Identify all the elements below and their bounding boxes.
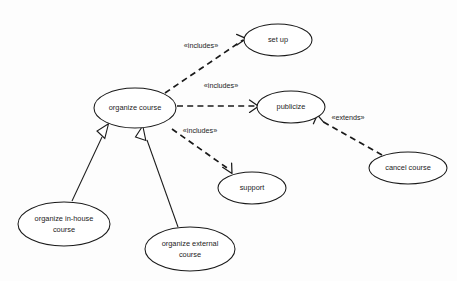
stereotype-label-includes-support: «includes» bbox=[183, 126, 217, 135]
use-case-support-label: support bbox=[240, 183, 265, 192]
relationship-includes-support[interactable] bbox=[172, 129, 232, 173]
use-case-organize-external-course[interactable]: organize external course bbox=[145, 227, 235, 271]
use-case-organize-in-house-course-label-line1: organize in-house bbox=[35, 214, 94, 223]
use-case-organize-in-house-course[interactable]: organize in-house course bbox=[18, 202, 110, 246]
generalization-in-house-line bbox=[72, 137, 102, 201]
use-case-cancel-course-label: cancel course bbox=[385, 163, 431, 172]
generalization-in-house-arrowhead bbox=[97, 124, 109, 139]
use-case-diagram-canvas: set up --> publicize --> support --> pub… bbox=[0, 0, 457, 281]
stereotype-label-includes-set-up: «includes» bbox=[184, 41, 218, 50]
use-case-layer: organize course set up publicize support… bbox=[18, 24, 447, 271]
use-case-organize-course[interactable]: organize course bbox=[94, 88, 176, 128]
use-case-organize-external-course-label-line1: organize external bbox=[162, 239, 219, 248]
use-case-cancel-course[interactable]: cancel course bbox=[369, 152, 447, 184]
use-case-publicize[interactable]: publicize bbox=[257, 91, 325, 123]
use-case-set-up[interactable]: set up bbox=[244, 24, 312, 56]
use-case-set-up-label: set up bbox=[268, 35, 288, 44]
use-case-publicize-label: publicize bbox=[277, 102, 306, 111]
stereotype-label-extends-publicize: «extends» bbox=[331, 113, 364, 122]
relationship-generalization-in-house[interactable] bbox=[72, 124, 109, 201]
stereotype-label-includes-publicize: «includes» bbox=[204, 81, 238, 90]
relationship-generalization-external[interactable] bbox=[136, 126, 179, 227]
use-case-support[interactable]: support bbox=[218, 172, 286, 204]
relationship-includes-publicize[interactable] bbox=[177, 100, 259, 112]
use-case-organize-course-label: organize course bbox=[109, 103, 162, 112]
include-support-arrowhead bbox=[223, 163, 232, 173]
use-case-organize-external-course-label-line2: course bbox=[179, 250, 201, 259]
use-case-organize-in-house-course-label-line2: course bbox=[53, 225, 75, 234]
generalization-external-line bbox=[147, 140, 178, 227]
use-case-diagram-svg: set up --> publicize --> support --> pub… bbox=[0, 0, 457, 281]
extend-publicize-line bbox=[320, 120, 382, 155]
include-support-line bbox=[172, 129, 230, 170]
